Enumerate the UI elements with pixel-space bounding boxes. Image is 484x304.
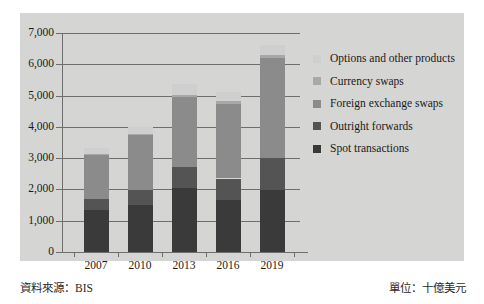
x-axis-tick [294,252,295,257]
y-axis-tick-label: 1,000 [28,215,54,226]
legend-item-label: Foreign exchange swaps [330,97,443,109]
y-axis-tick-label: 5,000 [28,90,54,101]
bar [260,33,285,252]
source-note: 資料來源：BIS [20,279,93,295]
bar-segment [84,210,109,252]
legend-swatch-icon [313,55,321,63]
x-axis-tick [118,252,119,257]
bar-segment [128,190,153,205]
bar-segment [172,95,197,97]
figure: 01,0002,0003,0004,0005,0006,0007,000 200… [0,0,484,304]
legend-item-label: Currency swaps [330,75,404,87]
legend-item: Foreign exchange swaps [313,97,473,111]
bar-segment [172,84,197,95]
y-axis-tick [56,127,62,128]
legend-item-label: Outright forwards [330,120,413,132]
legend-item-label: Spot transactions [330,142,409,154]
y-axis-labels: 01,0002,0003,0004,0005,0006,0007,000 [10,33,54,253]
x-axis-tick-label: 2016 [206,259,250,271]
bar [172,33,197,252]
bar-segment [216,104,241,178]
y-axis-tick-label: 4,000 [28,121,54,132]
bar-segment [128,134,153,135]
bar-segment [84,154,109,155]
bar-segment [216,101,241,104]
bar-segment [172,97,197,167]
bar-segment [84,199,109,210]
bar-segment [84,155,109,199]
bar-segment [172,167,197,188]
y-axis-tick-label: 0 [48,246,54,257]
legend-item: Currency swaps [313,75,473,89]
legend-item: Outright forwards [313,120,473,134]
y-axis-tick-label: 3,000 [28,152,54,163]
bar-segment [260,190,285,252]
bar [216,33,241,252]
bar-segment [84,148,109,154]
bar-segment [260,158,285,189]
bar-segment [260,58,285,158]
y-axis-tick [56,96,62,97]
x-axis-tick [250,252,251,257]
legend-item: Options and other products [313,52,473,66]
bar-segment [172,188,197,252]
y-axis-tick [56,158,62,159]
x-axis-line [62,252,308,253]
x-axis-tick [74,252,75,257]
bar-segment [128,135,153,190]
y-axis-tick [56,189,62,190]
bar-segment [216,200,241,252]
legend-item-label: Options and other products [330,52,455,64]
y-axis-tick [56,252,62,253]
y-axis-tick [56,64,62,65]
bar [128,33,153,252]
legend-swatch-icon [313,77,321,85]
bar-segment [216,179,241,201]
bar-segment [216,92,241,101]
plot-area: 20072010201320162019 [62,33,300,252]
bar-segment [128,205,153,252]
x-axis-tick-label: 2007 [74,259,118,271]
x-axis-tick-label: 2013 [162,259,206,271]
unit-note: 單位：十億美元 [389,279,466,295]
bar [84,33,109,252]
legend-swatch-icon [313,145,321,153]
legend-swatch-icon [313,122,321,130]
legend: Options and other productsCurrency swaps… [313,52,473,165]
x-axis-tick [206,252,207,257]
y-axis-tick-label: 7,000 [28,27,54,38]
x-axis-tick-label: 2010 [118,259,162,271]
y-axis-tick [56,33,62,34]
x-axis-tick-label: 2019 [250,259,294,271]
legend-swatch-icon [313,100,321,108]
y-axis-line [62,33,63,253]
x-axis-tick [162,252,163,257]
legend-item: Spot transactions [313,142,473,156]
bar-segment [260,45,285,55]
y-axis-tick [56,221,62,222]
bar-segment [260,55,285,58]
bar-segment [128,127,153,134]
y-axis-tick-label: 2,000 [28,183,54,194]
y-axis-tick-label: 6,000 [28,58,54,69]
